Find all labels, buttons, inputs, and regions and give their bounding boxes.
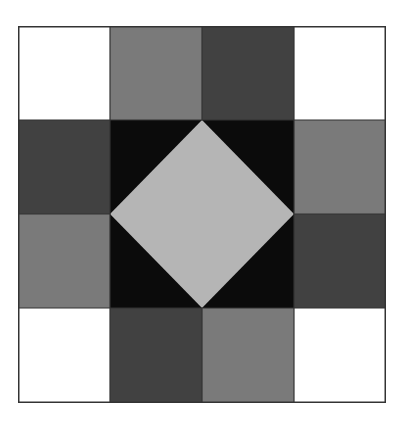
quilt-square-white (18, 308, 110, 403)
quilt-square-medium (294, 120, 386, 214)
quilt-square-white (294, 26, 386, 120)
diagram-canvas (0, 0, 407, 426)
quilt-block (18, 26, 386, 403)
quilt-square-medium (110, 26, 202, 120)
quilt-square-medium (18, 214, 110, 308)
quilt-square-dark (202, 26, 294, 120)
quilt-block-svg (18, 26, 386, 403)
quilt-square-white (18, 26, 110, 120)
quilt-square-dark (110, 308, 202, 403)
quilt-square-dark (18, 120, 110, 214)
quilt-square-dark (294, 214, 386, 308)
quilt-square-white (294, 308, 386, 403)
quilt-square-medium (202, 308, 294, 403)
